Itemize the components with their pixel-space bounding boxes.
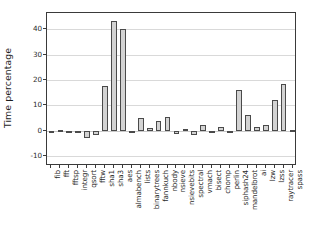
- bar-slot: [47, 13, 56, 164]
- bar: [245, 115, 251, 130]
- x-tick-label: fftw: [98, 170, 107, 183]
- bar-slot: [65, 13, 74, 164]
- y-tick-label: 0: [38, 125, 42, 134]
- x-tick-mark: [274, 165, 275, 168]
- bar: [183, 129, 189, 131]
- bar: [147, 128, 153, 131]
- bar: [272, 100, 278, 130]
- bar-slot: [163, 13, 172, 164]
- bar: [66, 131, 72, 133]
- bar: [227, 131, 233, 133]
- bar-slot: [261, 13, 270, 164]
- bar: [58, 130, 64, 132]
- bar-slot: [217, 13, 226, 164]
- y-tick-label: 40: [33, 24, 42, 33]
- x-tick-mark: [229, 165, 230, 168]
- x-tick-mark: [113, 165, 114, 168]
- x-tick-mark: [131, 165, 132, 168]
- x-tick-mark: [86, 165, 87, 168]
- x-tick-label: vmach: [205, 170, 214, 193]
- bar-slot: [136, 13, 145, 164]
- bar: [111, 21, 117, 131]
- x-tick-label: lzss: [277, 170, 286, 183]
- x-tick-label: fftsp: [71, 170, 80, 185]
- bar: [218, 127, 224, 131]
- bar: [290, 130, 296, 132]
- bar-slot: [252, 13, 261, 164]
- x-tick-label: sha3: [116, 170, 125, 187]
- x-tick-label: perlin: [232, 170, 241, 190]
- x-tick-mark: [184, 165, 185, 168]
- x-tick-label: aes: [125, 170, 134, 182]
- bar-slot: [279, 13, 288, 164]
- bar: [263, 125, 269, 131]
- x-tick-label: sha1: [107, 170, 116, 187]
- x-tick-mark: [149, 165, 150, 168]
- x-tick-mark: [220, 165, 221, 168]
- x-tick-mark: [211, 165, 212, 168]
- bar-slot: [181, 13, 190, 164]
- y-tick-label: 10: [33, 100, 42, 109]
- bar: [156, 121, 162, 131]
- x-tick-mark: [167, 165, 168, 168]
- bar: [281, 84, 287, 131]
- y-tick-label: -10: [31, 150, 42, 159]
- bar-slot: [270, 13, 279, 164]
- bar: [102, 86, 108, 131]
- bar-slot: [110, 13, 119, 164]
- x-tick-label: lzw: [268, 170, 277, 181]
- y-tick-label: 20: [33, 75, 42, 84]
- bar: [129, 131, 135, 133]
- x-tick-mark: [68, 165, 69, 168]
- bar: [191, 131, 197, 135]
- x-tick-mark: [247, 165, 248, 168]
- bar: [209, 131, 215, 133]
- bar: [165, 117, 171, 130]
- bar-slot: [101, 13, 110, 164]
- bar-slot: [145, 13, 154, 164]
- x-tick-mark: [104, 165, 105, 168]
- x-tick-label: chomp: [223, 170, 232, 194]
- bar-slot: [118, 13, 127, 164]
- x-tick-mark: [50, 165, 51, 168]
- x-tick-mark: [265, 165, 266, 168]
- x-tick-mark: [238, 165, 239, 168]
- x-tick-label: bisect: [214, 170, 223, 191]
- plot-area: [46, 12, 296, 165]
- bar: [75, 131, 81, 133]
- bar: [49, 131, 55, 133]
- x-tick-mark: [95, 165, 96, 168]
- bar-slot: [190, 13, 199, 164]
- y-axis-title: Time percentage: [2, 48, 13, 128]
- y-tick-label: 30: [33, 49, 42, 58]
- bar-slot: [199, 13, 208, 164]
- bar-slot: [226, 13, 235, 164]
- x-tick-mark: [202, 165, 203, 168]
- bar: [93, 131, 99, 135]
- x-tick-label: siphash24: [241, 170, 250, 205]
- bar-chart-figure: Time percentage -10010203040 fibfftfftsp…: [0, 0, 309, 237]
- bar-slot: [235, 13, 244, 164]
- bar-slot: [92, 13, 101, 164]
- bar-slot: [74, 13, 83, 164]
- x-tick-label: qsort: [89, 170, 98, 188]
- bar: [200, 125, 206, 131]
- bar: [120, 29, 126, 131]
- x-tick-mark: [59, 165, 60, 168]
- bar: [174, 131, 180, 134]
- x-tick-label: lists: [143, 170, 152, 184]
- x-tick-label: almabench: [134, 170, 143, 209]
- bar-slot: [83, 13, 92, 164]
- x-tick-mark: [140, 165, 141, 168]
- x-tick-mark: [175, 165, 176, 168]
- x-tick-mark: [77, 165, 78, 168]
- bar-slot: [208, 13, 217, 164]
- x-tick-mark: [122, 165, 123, 168]
- x-tick-label: spectral: [196, 170, 205, 198]
- bar-series: [47, 13, 295, 164]
- x-tick-label: integr: [80, 170, 89, 190]
- x-tick-label: mandelbrot: [250, 170, 259, 210]
- x-tick-label: spass: [295, 170, 304, 189]
- bar-slot: [172, 13, 181, 164]
- x-tick-label: fannkuch: [161, 170, 170, 202]
